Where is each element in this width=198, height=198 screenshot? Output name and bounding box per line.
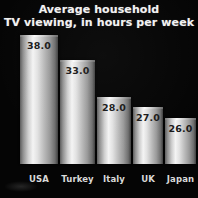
bar-italy: 28.0 [97,97,131,164]
category-label-usa: USA [20,174,58,184]
bar-uk: 27.0 [133,107,163,164]
category-label-uk: UK [133,174,163,184]
plot-area: 38.0 33.0 28.0 27.0 26.0 USA Turkey Ital… [0,0,198,198]
bar-chart-figure: Average household TV viewing, in hours p… [0,0,198,198]
category-label-turkey: Turkey [60,174,95,184]
bar-value-turkey: 33.0 [60,65,95,76]
category-label-italy: Italy [97,174,131,184]
category-label-japan: Japan [165,174,196,184]
bar-turkey: 33.0 [60,60,95,164]
bar-value-uk: 27.0 [133,112,163,123]
bar-japan: 26.0 [165,118,196,164]
bar-value-italy: 28.0 [97,102,131,113]
bar-value-japan: 26.0 [165,123,196,134]
bar-usa: 38.0 [20,35,58,164]
bar-value-usa: 38.0 [20,40,58,51]
